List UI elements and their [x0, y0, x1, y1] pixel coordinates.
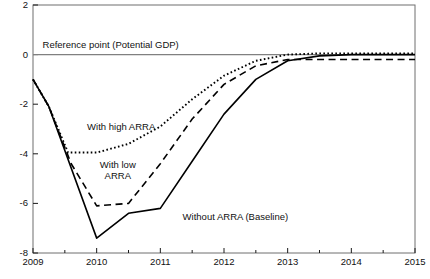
y-axis-tick-label-4: -4 [20, 148, 28, 159]
y-axis-tick-label-2: 2 [23, 0, 28, 10]
x-axis-tick-label-2010: 2010 [77, 256, 117, 267]
x-axis-tick-label-2014: 2014 [331, 256, 371, 267]
x-axis-tick-label-2009: 2009 [13, 256, 53, 267]
x-axis-tick-label-2012: 2012 [204, 256, 244, 267]
reference-line-label: Reference point (Potential GDP) [43, 39, 179, 50]
y-axis-tick-label-2: -2 [20, 98, 28, 109]
series-annotation-with-low-arra: With low ARRA [100, 159, 136, 181]
series-annotation-without-arra-baseline: Without ARRA (Baseline) [183, 211, 289, 222]
x-axis-tick-label-2011: 2011 [140, 256, 180, 267]
x-axis-tick-label-2015: 2015 [395, 256, 430, 267]
x-axis-tick-label-2013: 2013 [268, 256, 308, 267]
series-annotation-with-high-arra: With high ARRA [87, 121, 155, 132]
y-axis-tick-label-6: -6 [20, 197, 28, 208]
y-axis-tick-label-0: 0 [23, 49, 28, 60]
